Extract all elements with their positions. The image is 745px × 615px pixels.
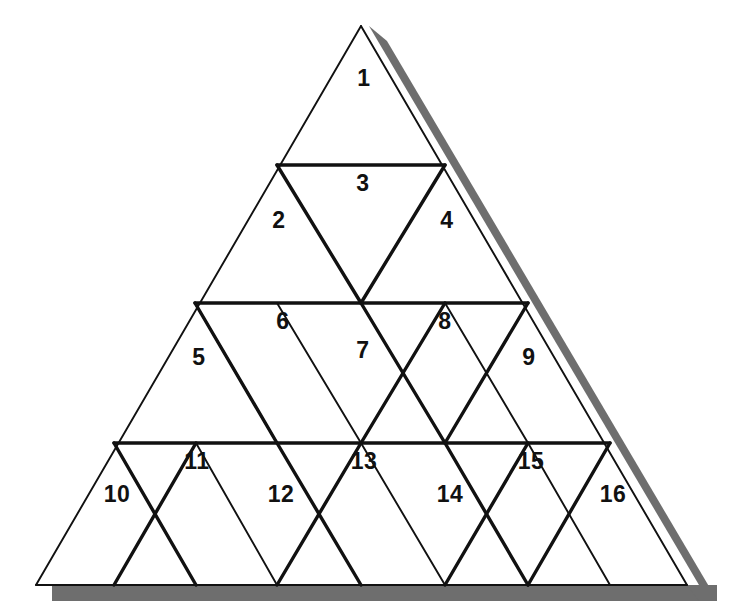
- cell-label-7: 7: [356, 337, 369, 363]
- triangle-diagram: 12345678910111213141516: [0, 0, 745, 615]
- cell-label-12: 12: [268, 481, 295, 507]
- cell-label-8: 8: [438, 308, 451, 334]
- figure-canvas: 12345678910111213141516: [0, 0, 745, 615]
- cell-label-4: 4: [440, 207, 453, 233]
- cell-label-15: 15: [518, 448, 545, 474]
- cell-label-11: 11: [184, 448, 209, 474]
- cell-label-6: 6: [276, 308, 289, 334]
- cell-label-5: 5: [192, 344, 205, 370]
- cell-label-1: 1: [357, 65, 370, 91]
- cell-label-13: 13: [351, 448, 378, 474]
- cell-label-16: 16: [600, 481, 627, 507]
- cell-label-3: 3: [356, 170, 369, 196]
- cell-label-2: 2: [272, 207, 285, 233]
- cell-label-10: 10: [104, 481, 131, 507]
- cell-label-9: 9: [522, 344, 535, 370]
- cell-label-14: 14: [437, 481, 464, 507]
- shadow-bottom-band: [52, 586, 717, 601]
